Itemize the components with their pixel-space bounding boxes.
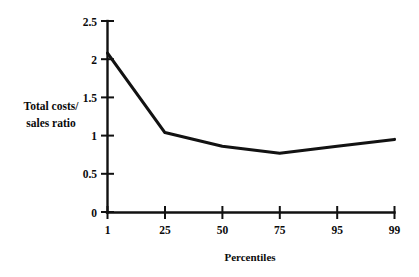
line-chart: 2.5 2 1.5 1 0.5 0 1 25 50 75 95 99 Perce… [0,0,419,277]
y-tick-label-2: 2 [91,54,97,66]
y-tick-label-2.5: 2.5 [83,16,98,28]
x-tick-label-1: 1 [105,224,111,236]
x-tick-label-75: 75 [274,224,286,236]
x-tick-label-95: 95 [331,224,343,236]
y-axis-title-line2: sales ratio [26,117,76,129]
x-tick-label-50: 50 [217,224,229,236]
x-tick-label-99: 99 [389,224,401,236]
y-tick-label-1: 1 [91,130,97,142]
x-tick-label-25: 25 [159,224,171,236]
y-tick-label-0.5: 0.5 [83,168,98,180]
y-axis-title-line1: Total costs/ [24,100,80,112]
y-tick-label-1.5: 1.5 [83,92,98,104]
x-axis-title: Percentiles [224,251,276,263]
chart-background [0,0,419,277]
y-tick-label-0: 0 [91,207,97,219]
chart-figure: 2.5 2 1.5 1 0.5 0 1 25 50 75 95 99 Perce… [0,0,419,277]
